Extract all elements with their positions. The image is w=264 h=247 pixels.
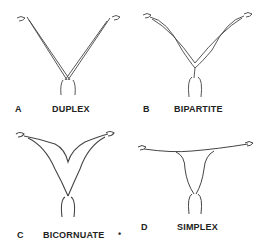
panel-letter: B <box>143 104 150 114</box>
panel-bipartite: B BIPARTITE <box>132 0 264 124</box>
panel-bicornuate: C BICORNUATE <box>0 124 132 247</box>
panel-label: SIMPLEX <box>177 222 218 232</box>
panel-simplex: D SIMPLEX <box>132 124 264 247</box>
panel-letter: A <box>15 104 22 114</box>
panel-letter: D <box>141 222 148 232</box>
panel-letter: C <box>17 230 24 240</box>
separator-dot: • <box>118 229 121 239</box>
panel-label: BIPARTITE <box>174 104 223 114</box>
bicornuate-uterus-illustration <box>0 124 124 247</box>
panel-duplex: A DUPLEX <box>0 0 132 124</box>
panel-label: DUPLEX <box>52 104 90 114</box>
panel-label: BICORNUATE <box>43 230 104 240</box>
